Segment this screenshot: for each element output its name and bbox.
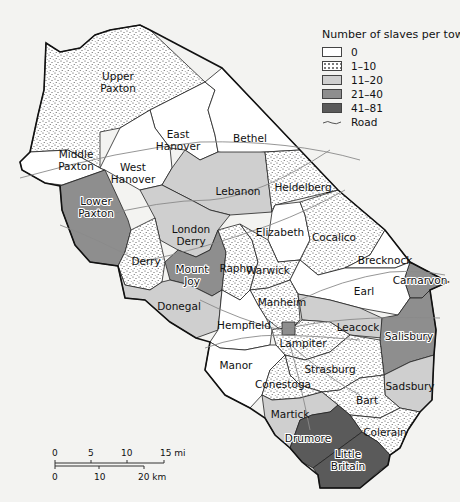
legend-item: 0: [322, 45, 458, 58]
scale-km-0: 0: [52, 472, 58, 482]
town-label-upper-paxton: UpperPaxton: [100, 70, 136, 94]
legend-swatch: [322, 61, 342, 71]
scale-mi-15: 15 mi: [160, 448, 186, 458]
town-label-manheim: Manheim: [258, 296, 306, 308]
town-label-elizabeth: Elizabeth: [256, 226, 304, 238]
legend-item: 1–10: [322, 59, 458, 72]
town-label-derry: Derry: [131, 255, 160, 267]
legend-road-label: Road: [351, 116, 377, 128]
town-label-leacock: Leacock: [337, 321, 381, 333]
town-label-hempfield: Hempfield: [217, 319, 271, 331]
town-label-manor: Manor: [220, 359, 254, 371]
legend-swatch: [322, 47, 342, 57]
town-label-bart: Bart: [356, 394, 378, 406]
town-label-carnarvon: Carnarvon: [393, 274, 448, 286]
map-legend: Number of slaves per town 01–1011–2021–4…: [322, 28, 458, 129]
scale-mi-10: 10: [121, 448, 132, 458]
legend-label: 21–40: [351, 88, 383, 100]
town-label-middle-paxton: MiddlePaxton: [58, 148, 94, 172]
town-label-lebanon: Lebanon: [216, 185, 261, 197]
town-label-drumore: Drumore: [285, 432, 331, 444]
legend-label: 41–81: [351, 102, 383, 114]
town-label-cocalico: Cocalico: [312, 231, 356, 243]
town-label-warwick: Warwick: [246, 264, 291, 276]
town-label-london-derry: LondonDerry: [172, 223, 211, 247]
legend-title: Number of slaves per town: [322, 28, 458, 41]
town-label-lampiter: Lampiter: [280, 337, 328, 349]
road-line-icon: [322, 117, 342, 127]
town-label-bethel: Bethel: [233, 132, 267, 144]
town-label-colerain: Colerain: [363, 426, 406, 438]
legend-item: 11–20: [322, 73, 458, 86]
legend-item: 21–40: [322, 87, 458, 100]
town-label-lower-paxton: LowerPaxton: [78, 195, 114, 219]
legend-swatch: [322, 75, 342, 85]
scale-mi-0: 0: [52, 448, 58, 458]
town-label-salisbury: Salisbury: [385, 330, 433, 342]
legend-label: 0: [351, 46, 358, 58]
legend-label: 11–20: [351, 74, 383, 86]
town-label-little-britain: LittleBritain: [331, 448, 366, 472]
town-lancaster: [282, 322, 295, 335]
town-label-strasburg: Strasburg: [304, 363, 355, 375]
town-label-brecknock: Brecknock: [358, 254, 413, 266]
town-label-earl: Earl: [354, 285, 374, 297]
town-label-heidelberg: Heidelberg: [274, 181, 331, 193]
legend-item: 41–81: [322, 101, 458, 114]
town-label-martick: Martick: [271, 408, 311, 420]
town-label-conestoga: Conestoga: [255, 378, 311, 390]
town-label-donegal: Donegal: [157, 300, 201, 312]
legend-item-road: Road: [322, 115, 458, 128]
scale-mi-5: 5: [88, 448, 94, 458]
scale-km-20: 20 km: [138, 472, 166, 482]
town-label-sadsbury: Sadsbury: [385, 380, 434, 392]
legend-swatch: [322, 103, 342, 113]
scale-km-10: 10: [94, 472, 105, 482]
legend-label: 1–10: [351, 60, 376, 72]
legend-swatch: [322, 89, 342, 99]
